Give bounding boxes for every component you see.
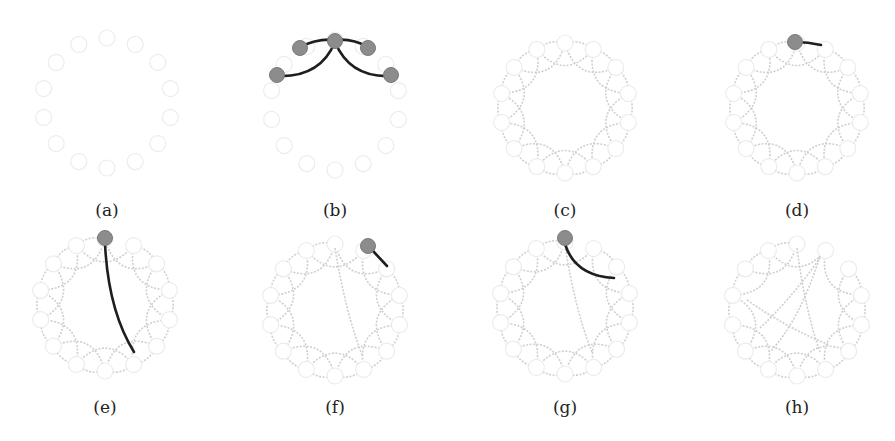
ghost-node: [528, 359, 544, 375]
ghost-node: [298, 361, 314, 377]
panel-label-h: (h): [785, 397, 809, 417]
active-node: [98, 231, 113, 246]
ghost-node: [33, 312, 49, 328]
ghost-node: [586, 241, 602, 257]
ghost-node: [299, 156, 315, 172]
ghost-node: [71, 36, 87, 52]
ghost-node: [264, 111, 280, 127]
active-node: [361, 41, 376, 56]
panel-label-a: (a): [95, 200, 118, 220]
ghost-node: [853, 317, 869, 333]
ghost-node: [494, 86, 510, 102]
active-node: [788, 35, 803, 50]
ghost-node: [738, 59, 754, 75]
ghost-node: [818, 361, 834, 377]
ghost-node: [45, 338, 61, 354]
ring-edge: [76, 348, 133, 364]
panel-label-g: (g): [553, 397, 577, 417]
panel-label-b: (b): [323, 200, 347, 220]
ghost-node: [327, 368, 343, 384]
ghost-node: [493, 285, 509, 301]
ghost-node: [505, 259, 521, 275]
ghost-node: [609, 259, 625, 275]
ghost-node: [529, 159, 545, 175]
ghost-node: [391, 287, 407, 303]
ghost-node: [126, 238, 142, 254]
ghost-node: [506, 59, 522, 75]
ghost-node: [726, 86, 742, 102]
ghost-node: [99, 30, 115, 46]
ghost-node: [789, 165, 805, 181]
ghost-node: [528, 241, 544, 257]
ghost-node: [379, 261, 395, 277]
ghost-node: [493, 315, 509, 331]
ghost-node: [162, 109, 178, 125]
ghost-node: [852, 86, 868, 102]
ghost-node: [737, 261, 753, 277]
ring-edge: [306, 353, 363, 369]
ghost-node: [390, 111, 406, 127]
ghost-node: [494, 114, 510, 130]
ghost-node: [36, 81, 52, 97]
active-node: [361, 239, 376, 254]
active-node: [558, 231, 573, 246]
ghost-node: [585, 41, 601, 57]
ghost-node: [97, 363, 113, 379]
ghost-node: [853, 287, 869, 303]
panel-label-e: (e): [93, 397, 116, 417]
ghost-node: [161, 282, 177, 298]
ghost-node: [126, 356, 142, 372]
panel-label-f: (f): [325, 397, 345, 417]
ghost-node: [841, 343, 857, 359]
panel-c: [494, 35, 637, 181]
ghost-node: [33, 282, 49, 298]
ring-edge: [536, 351, 593, 367]
ring-edge: [769, 49, 825, 65]
ghost-node: [529, 41, 545, 57]
ghost-node: [840, 141, 856, 157]
ghost-node: [127, 36, 143, 52]
ghost-node: [621, 285, 637, 301]
ghost-node: [609, 341, 625, 357]
ghost-node: [620, 114, 636, 130]
ghost-node: [99, 160, 115, 176]
ghost-node: [585, 159, 601, 175]
rewired-edge: [770, 256, 820, 352]
ghost-node: [45, 256, 61, 272]
ghost-node: [264, 83, 280, 99]
ring-edge: [335, 248, 362, 355]
ghost-node: [737, 343, 753, 359]
active-node: [293, 41, 308, 56]
ring-edge: [768, 353, 825, 369]
ghost-node: [760, 361, 776, 377]
ghost-node: [298, 243, 314, 259]
ghost-node: [275, 343, 291, 359]
ghost-node: [557, 366, 573, 382]
ghost-node: [852, 114, 868, 130]
ghost-node: [841, 261, 857, 277]
ghost-node: [586, 359, 602, 375]
ring-edge: [565, 245, 592, 352]
ghost-node: [725, 287, 741, 303]
ghost-node: [761, 41, 777, 57]
ghost-node: [557, 165, 573, 181]
ghost-node: [68, 238, 84, 254]
ghost-node: [275, 261, 291, 277]
panel-f: [263, 236, 408, 384]
ghost-node: [620, 86, 636, 102]
panel-d: [726, 35, 869, 182]
active-node: [270, 68, 285, 83]
ghost-node: [608, 59, 624, 75]
active-edge: [105, 243, 134, 352]
ghost-node: [726, 114, 742, 130]
ghost-node: [391, 317, 407, 333]
panel-b: [264, 32, 407, 178]
ghost-node: [356, 361, 372, 377]
ghost-node: [48, 54, 64, 70]
ghost-node: [378, 138, 394, 154]
ghost-node: [390, 83, 406, 99]
ghost-node: [127, 154, 143, 170]
ghost-node: [162, 81, 178, 97]
ghost-node: [621, 315, 637, 331]
ghost-node: [738, 141, 754, 157]
